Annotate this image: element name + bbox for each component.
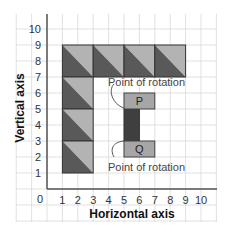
x-tick-label: 8 (167, 194, 173, 206)
x-tick-label: 1 (59, 194, 65, 206)
tile (62, 109, 93, 141)
y-tick-label: 4 (35, 119, 41, 131)
x-tick-label: 7 (152, 194, 158, 206)
y-tick-label: 8 (35, 55, 41, 67)
tile (62, 141, 93, 173)
y-tick-label: 6 (35, 87, 41, 99)
y-tick-label: 10 (29, 23, 41, 35)
y-tick-label: 2 (35, 151, 41, 163)
y-tick-label: 5 (35, 103, 41, 115)
annotation-point-of-rotation-top: Point of rotation (108, 76, 185, 88)
x-tick-label: 2 (75, 194, 81, 206)
tile (124, 45, 155, 77)
y-tick-label: 7 (35, 71, 41, 83)
origin-label: 0 (37, 193, 43, 205)
x-tick-label: 6 (136, 194, 142, 206)
x-tick-label: 4 (106, 194, 112, 206)
label-q: Q (135, 143, 144, 155)
x-tick-label: 10 (195, 194, 207, 206)
annotation-point-of-rotation-bottom: Point of rotation (108, 161, 185, 173)
x-tick-label: 3 (90, 194, 96, 206)
y-tick-label: 9 (35, 39, 41, 51)
tile (62, 77, 93, 109)
pointer-curve-bottom (112, 141, 124, 157)
tile (155, 45, 186, 77)
label-p: P (136, 95, 143, 107)
x-tick-label: 5 (121, 194, 127, 206)
x-tick-label: 9 (183, 194, 189, 206)
rotation-diagram: P Q Point of rotation Point of rotation … (0, 0, 230, 237)
y-tick-label: 3 (35, 135, 41, 147)
x-axis-ticks: 12345678910 (59, 194, 207, 206)
shape-bar (124, 109, 139, 141)
y-axis-ticks: 12345678910 (29, 23, 41, 179)
y-tick-label: 1 (35, 167, 41, 179)
tile (62, 45, 93, 77)
y-axis-title: Vertical axis (13, 73, 27, 143)
x-axis-title: Horizontal axis (89, 207, 175, 221)
tile (93, 45, 124, 77)
